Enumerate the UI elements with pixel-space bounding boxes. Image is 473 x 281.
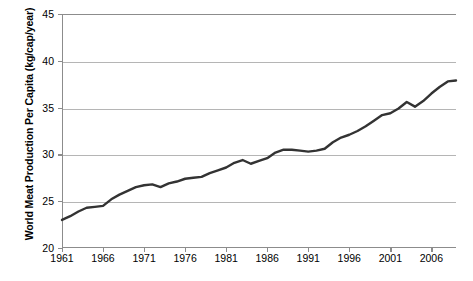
gridline xyxy=(63,155,456,156)
plot-area xyxy=(62,14,456,248)
x-axis-tick-mark xyxy=(62,248,63,252)
y-axis-tick-label: 35 xyxy=(18,102,54,114)
y-axis-tick-label: 40 xyxy=(18,55,54,67)
x-axis-tick-mark xyxy=(308,248,309,252)
y-axis-tick-label: 20 xyxy=(18,242,54,254)
x-axis-tick-mark xyxy=(144,248,145,252)
x-axis-tick-label: 1996 xyxy=(338,252,361,264)
x-axis-tick-label: 2006 xyxy=(420,252,443,264)
y-axis-tick-label: 30 xyxy=(18,148,54,160)
x-axis-tick-label: 1971 xyxy=(132,252,155,264)
x-axis-tick-mark xyxy=(431,248,432,252)
x-axis-tick-mark xyxy=(349,248,350,252)
x-axis-tick-mark xyxy=(226,248,227,252)
x-axis-tick-mark xyxy=(267,248,268,252)
x-axis-tick-mark xyxy=(390,248,391,252)
x-axis-tick-label: 1961 xyxy=(50,252,73,264)
x-axis-tick-label: 1966 xyxy=(91,252,114,264)
x-axis-tick-label: 1981 xyxy=(214,252,237,264)
x-axis-tick-label: 1986 xyxy=(256,252,279,264)
x-axis-tick-label: 2001 xyxy=(379,252,402,264)
chart-container: World Meat Production Per Capita (kg/cap… xyxy=(0,0,473,281)
gridline xyxy=(63,62,456,63)
y-axis-tick-label: 45 xyxy=(18,8,54,20)
gridline xyxy=(63,202,456,203)
x-axis-tick-label: 1976 xyxy=(173,252,196,264)
gridline xyxy=(63,109,456,110)
x-axis-tick-mark xyxy=(185,248,186,252)
y-axis-tick-label: 25 xyxy=(18,195,54,207)
y-axis-title: World Meat Production Per Capita (kg/cap… xyxy=(23,0,35,249)
x-axis-tick-label: 1991 xyxy=(297,252,320,264)
x-axis-tick-mark xyxy=(103,248,104,252)
